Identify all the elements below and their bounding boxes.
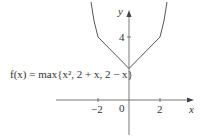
x-tick-label-2: 2 bbox=[157, 104, 163, 115]
x-tick-label-neg2: −2 bbox=[91, 104, 103, 115]
y-axis-arrow-icon bbox=[127, 10, 132, 17]
x-axis-arrow-icon bbox=[187, 98, 194, 103]
function-annotation: f(x) = max{x², 2 + x, 2 − x} bbox=[10, 69, 133, 80]
x-axis-label: x bbox=[189, 104, 194, 115]
x-tick-label-0: 0 bbox=[119, 103, 125, 114]
y-axis-label: y bbox=[118, 6, 123, 17]
y-tick-label-4: 4 bbox=[119, 32, 125, 43]
